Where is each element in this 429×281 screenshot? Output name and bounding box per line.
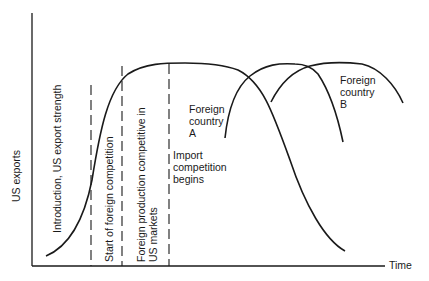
foreign-country-a-curve (225, 64, 343, 142)
import-competition-label-line3: begins (173, 173, 204, 185)
import-competition-label-line1: Import (173, 149, 203, 161)
import-competition-label-line2: competition (173, 161, 227, 173)
phase-label-introduction: Introduction, US export strength (51, 85, 63, 233)
phase-label-start-foreign-competition: Start of foreign competition (103, 137, 115, 262)
x-axis-label: Time (389, 259, 412, 271)
foreign-country-b-curve (271, 63, 403, 103)
foreign-country-a-label-line3: A (189, 127, 196, 139)
y-axis-label: US exports (10, 150, 22, 202)
foreign-country-b-label-line1: Foreign (340, 74, 376, 86)
foreign-country-b-label-line2: country (340, 86, 374, 98)
foreign-country-b-label-line3: B (340, 98, 347, 110)
foreign-country-a-label-line2: country (189, 115, 223, 127)
product-life-cycle-diagram (0, 0, 429, 281)
phase-label-foreign-production-line1: Foreign production competitive in (135, 107, 147, 262)
foreign-country-a-label-line1: Foreign (189, 103, 225, 115)
phase-label-foreign-production-line2: US markets (147, 207, 159, 262)
